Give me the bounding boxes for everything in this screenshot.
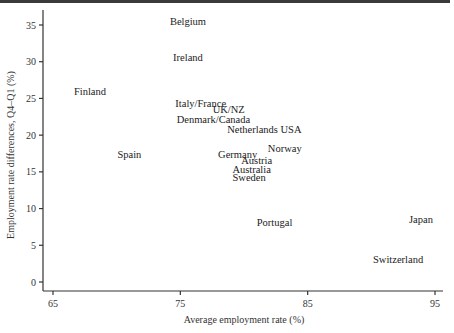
data-point-label: Japan xyxy=(409,214,434,225)
scatter-chart: 65758595 05101520253035 BelgiumIrelandFi… xyxy=(0,0,454,333)
data-point-label: Sweden xyxy=(232,172,266,183)
data-point-label: Norway xyxy=(268,143,303,154)
y-tick-label: 0 xyxy=(31,277,36,288)
data-point-label: Belgium xyxy=(170,16,206,27)
y-tick-label: 25 xyxy=(26,93,36,104)
y-tick-label: 30 xyxy=(26,56,36,67)
data-point-label: Finland xyxy=(74,86,107,97)
y-ticks: 05101520253035 xyxy=(26,20,43,288)
x-axis-title: Average employment rate (%) xyxy=(184,314,305,326)
data-point-label: Switzerland xyxy=(373,254,424,265)
x-tick-label: 75 xyxy=(175,298,185,309)
data-point-label: Spain xyxy=(117,149,142,160)
data-point-label: Ireland xyxy=(173,52,203,63)
y-axis-title: Employment rate differences, Q4–Q1 (%) xyxy=(5,71,17,239)
x-tick-label: 65 xyxy=(48,298,58,309)
data-point-label: Netherlands USA xyxy=(227,124,302,135)
x-tick-label: 95 xyxy=(430,298,440,309)
x-ticks: 65758595 xyxy=(48,291,440,309)
point-labels: BelgiumIrelandFinlandItaly/FranceUK/NZDe… xyxy=(74,16,434,266)
y-tick-label: 35 xyxy=(26,20,36,31)
y-tick-label: 10 xyxy=(26,203,36,214)
y-tick-label: 15 xyxy=(26,166,36,177)
data-point-label: Portugal xyxy=(257,217,293,228)
y-tick-label: 20 xyxy=(26,130,36,141)
x-tick-label: 85 xyxy=(303,298,313,309)
y-tick-label: 5 xyxy=(31,240,36,251)
